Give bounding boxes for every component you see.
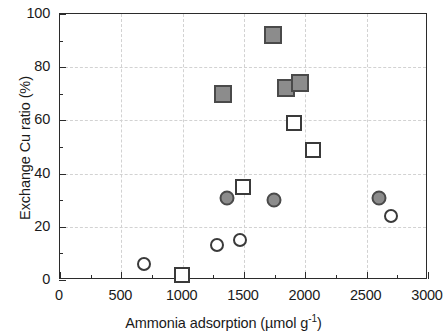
plot-area — [59, 13, 427, 279]
data-point-open-square — [305, 142, 321, 158]
x-tick-label: 0 — [55, 287, 63, 303]
data-point-open-square — [235, 179, 251, 195]
data-point-open-circle — [137, 257, 151, 271]
y-tick-major — [59, 227, 66, 228]
y-axis-title: Exchange Cu ratio (%) — [17, 38, 33, 258]
x-tick-minor — [213, 275, 214, 279]
y-tick-major — [59, 174, 66, 175]
x-tick-major — [428, 272, 429, 279]
x-tick-minor — [336, 275, 337, 279]
y-tick-label: 0 — [8, 271, 50, 287]
data-point-open-square — [174, 267, 190, 283]
x-tick-minor — [91, 275, 92, 279]
data-point-open-circle — [384, 209, 398, 223]
data-point-filled-square — [291, 74, 309, 92]
y-tick-minor — [59, 94, 63, 95]
data-point-filled-circle — [371, 190, 386, 205]
y-tick-major — [59, 14, 66, 15]
x-axis-title: Ammonia adsorption (µmol g-1) — [0, 313, 447, 331]
x-tick-major — [60, 272, 61, 279]
data-point-filled-circle — [267, 193, 282, 208]
data-point-open-circle — [233, 233, 247, 247]
x-tick-label: 1000 — [166, 287, 197, 303]
x-axis-title-superscript: -1 — [308, 313, 317, 324]
x-tick-minor — [275, 275, 276, 279]
gridline-vertical — [121, 14, 122, 278]
x-tick-major — [305, 272, 306, 279]
y-tick-minor — [59, 200, 63, 201]
data-point-filled-square — [214, 85, 232, 103]
y-tick-minor — [59, 41, 63, 42]
y-tick-major — [59, 67, 66, 68]
gridline-horizontal — [60, 174, 426, 175]
y-tick-minor — [59, 253, 63, 254]
data-point-filled-circle — [219, 190, 234, 205]
gridline-vertical — [183, 14, 184, 278]
y-tick-major — [59, 280, 66, 281]
x-tick-label: 1500 — [227, 287, 258, 303]
y-tick-major — [59, 120, 66, 121]
gridline-horizontal — [60, 227, 426, 228]
x-tick-label: 3000 — [411, 287, 442, 303]
x-tick-label: 500 — [109, 287, 133, 303]
x-tick-major — [367, 272, 368, 279]
x-tick-minor — [397, 275, 398, 279]
data-point-filled-square — [264, 26, 282, 44]
x-tick-label: 2500 — [350, 287, 381, 303]
data-point-open-square — [286, 115, 302, 131]
x-tick-major — [244, 272, 245, 279]
gridline-horizontal — [60, 67, 426, 68]
x-tick-major — [121, 272, 122, 279]
x-tick-label: 2000 — [289, 287, 320, 303]
data-point-open-circle — [210, 238, 224, 252]
y-tick-label: 100 — [8, 5, 50, 21]
gridline-vertical — [367, 14, 368, 278]
scatter-chart: 050010001500200025003000 020406080100 Am… — [0, 0, 447, 335]
y-tick-minor — [59, 147, 63, 148]
gridline-horizontal — [60, 120, 426, 121]
x-tick-minor — [152, 275, 153, 279]
